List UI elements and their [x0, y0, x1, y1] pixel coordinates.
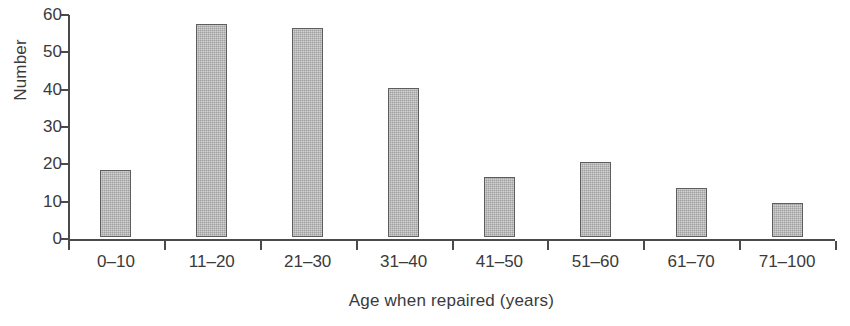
x-tick-label: 0–10 — [68, 252, 164, 272]
x-tick-mark — [260, 241, 262, 250]
x-tick-label: 61–70 — [643, 252, 739, 272]
y-tick-mark — [61, 51, 69, 53]
bar — [484, 177, 515, 237]
y-tick-label: 20 — [28, 155, 62, 172]
x-tick-label: 41–50 — [452, 252, 548, 272]
y-tick-mark — [61, 163, 69, 165]
x-tick-mark — [68, 241, 70, 250]
x-tick-mark — [547, 241, 549, 250]
x-tick-label: 71–100 — [739, 252, 835, 272]
x-tick-mark — [835, 241, 837, 250]
x-tick-mark — [164, 241, 166, 250]
y-tick-label: 30 — [28, 118, 62, 135]
bar — [580, 162, 611, 237]
bar — [196, 24, 227, 237]
y-tick-label: 40 — [28, 81, 62, 98]
y-tick-label: 50 — [28, 43, 62, 60]
y-tick-label: 60 — [28, 6, 62, 23]
y-tick-mark — [61, 238, 69, 240]
y-tick-label: 0 — [28, 230, 62, 247]
y-tick-mark — [61, 14, 69, 16]
y-tick-mark — [61, 89, 69, 91]
x-tick-label: 21–30 — [260, 252, 356, 272]
x-tick-label: 11–20 — [164, 252, 260, 272]
bar — [772, 203, 803, 237]
plot-area — [68, 15, 835, 239]
y-axis-tick-labels: 0102030405060 — [28, 0, 62, 326]
bar — [292, 28, 323, 237]
x-tick-label: 31–40 — [356, 252, 452, 272]
y-tick-label: 10 — [28, 193, 62, 210]
bar-chart: Number 0102030405060 0–1011–2021–3031–40… — [0, 0, 850, 326]
x-tick-mark — [452, 241, 454, 250]
x-tick-mark — [739, 241, 741, 250]
x-tick-label: 51–60 — [547, 252, 643, 272]
x-tick-mark — [356, 241, 358, 250]
y-tick-mark — [61, 201, 69, 203]
x-axis-title: Age when repaired (years) — [68, 291, 835, 311]
x-axis-tick-labels: 0–1011–2021–3031–4041–5051–6061–7071–100 — [68, 252, 835, 278]
y-tick-mark — [61, 126, 69, 128]
bar — [676, 188, 707, 237]
bar — [100, 170, 131, 237]
bar — [388, 88, 419, 237]
x-tick-mark — [643, 241, 645, 250]
